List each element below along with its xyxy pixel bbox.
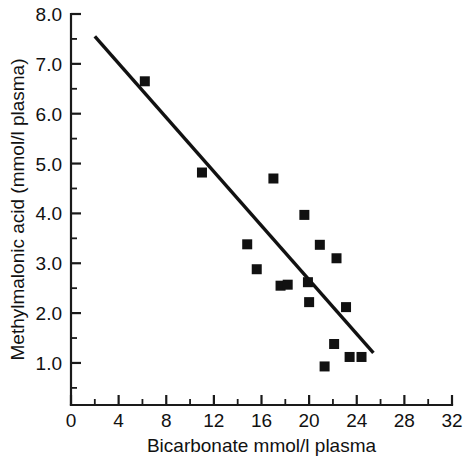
data-point	[197, 168, 207, 178]
y-axis-title: Methylmalonic acid (mmol/l plasma)	[7, 59, 28, 361]
x-tick-label: 24	[346, 410, 368, 431]
x-tick-label: 28	[394, 410, 415, 431]
x-tick-label: 16	[251, 410, 272, 431]
data-point	[329, 339, 339, 349]
scatter-plot: 1.02.03.04.05.06.07.08.0 048121620242832…	[0, 0, 464, 459]
data-point	[341, 302, 351, 312]
data-point	[268, 174, 278, 184]
data-point	[315, 240, 325, 250]
plot-background	[0, 0, 464, 459]
data-point	[283, 280, 293, 290]
y-tick-label: 6.0	[36, 104, 62, 125]
data-point	[357, 352, 367, 362]
data-point	[242, 239, 252, 249]
y-tick-label: 3.0	[36, 253, 62, 274]
data-point	[304, 297, 314, 307]
x-tick-label: 4	[113, 410, 124, 431]
x-tick-label: 32	[441, 410, 462, 431]
y-tick-label: 2.0	[36, 303, 62, 324]
x-tick-label: 0	[66, 410, 77, 431]
y-tick-label: 5.0	[36, 154, 62, 175]
x-tick-label: 20	[299, 410, 320, 431]
y-tick-label: 4.0	[36, 203, 62, 224]
data-point	[299, 210, 309, 220]
data-point	[332, 253, 342, 263]
chart-figure: 1.02.03.04.05.06.07.08.0 048121620242832…	[0, 0, 464, 459]
y-tick-label: 7.0	[36, 54, 62, 75]
data-point	[252, 264, 262, 274]
data-point	[320, 361, 330, 371]
data-point	[345, 352, 355, 362]
data-point	[303, 277, 313, 287]
x-axis-title: Bicarbonate mmol/l plasma	[147, 435, 377, 456]
data-point	[140, 76, 150, 86]
y-tick-label: 8.0	[36, 4, 62, 25]
y-tick-label: 1.0	[36, 353, 62, 374]
x-tick-label: 12	[203, 410, 224, 431]
x-tick-label: 8	[161, 410, 172, 431]
